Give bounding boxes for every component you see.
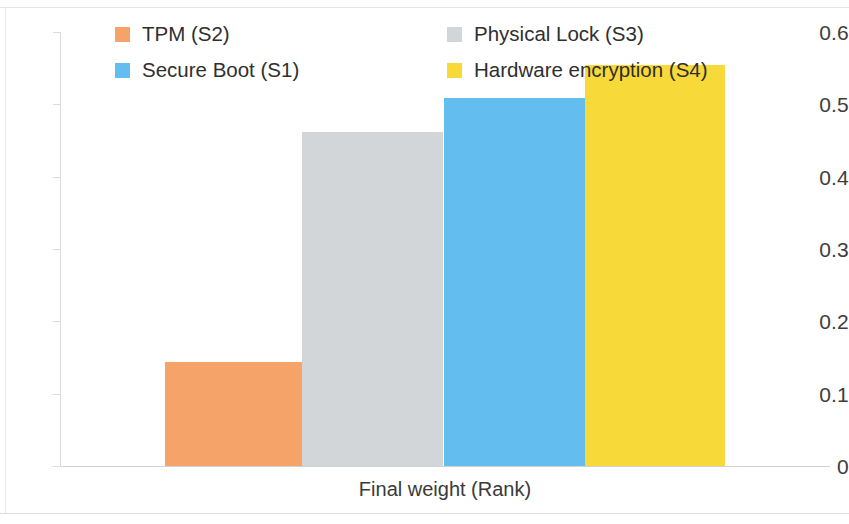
bar-4[interactable] — [585, 65, 725, 466]
legend-item[interactable]: TPM (S2) — [115, 24, 230, 45]
legend-swatch-icon — [447, 27, 462, 42]
figure-top-border — [0, 7, 849, 8]
legend-label: Hardware encryption (S4) — [474, 60, 708, 81]
legend-label: Secure Boot (S1) — [142, 60, 299, 81]
figure-bottom-border — [0, 513, 849, 514]
bar-1[interactable] — [165, 362, 305, 466]
bar-chart-figure: 0.60.50.40.30.20.10 TPM (S2)Physical Loc… — [0, 0, 849, 524]
legend-item[interactable]: Hardware encryption (S4) — [447, 60, 708, 81]
bar-3[interactable] — [444, 98, 585, 466]
legend-label: TPM (S2) — [142, 24, 230, 45]
plot-area — [60, 32, 830, 466]
legend-swatch-icon — [115, 63, 130, 78]
legend-swatch-icon — [447, 63, 462, 78]
x-axis-line — [60, 466, 830, 467]
x-axis-title: Final weight (Rank) — [60, 479, 830, 499]
legend-item[interactable]: Physical Lock (S3) — [447, 24, 644, 45]
legend-swatch-icon — [115, 27, 130, 42]
legend-label: Physical Lock (S3) — [474, 24, 644, 45]
figure-left-border — [5, 8, 6, 513]
bar-2[interactable] — [302, 132, 443, 466]
y-axis-tick — [53, 466, 61, 467]
legend-item[interactable]: Secure Boot (S1) — [115, 60, 299, 81]
